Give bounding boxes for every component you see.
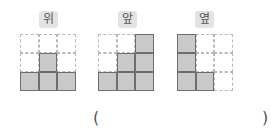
answer-close-paren: ) (262, 108, 268, 127)
empty-cell (117, 34, 136, 53)
empty-cell (39, 34, 58, 53)
filled-cell (177, 72, 196, 91)
answer-blank[interactable] (105, 108, 260, 128)
filled-cell (135, 53, 154, 72)
grid-front (98, 34, 154, 91)
filled-cell (98, 72, 117, 91)
filled-cell (117, 72, 136, 91)
filled-cell (20, 72, 39, 91)
empty-cell (196, 53, 215, 72)
filled-cell (196, 72, 215, 91)
empty-cell (214, 34, 233, 53)
empty-cell (214, 72, 233, 91)
filled-cell (57, 72, 76, 91)
filled-cell (39, 53, 58, 72)
empty-cell (20, 53, 39, 72)
filled-cell (39, 72, 58, 91)
grid-side (177, 34, 233, 91)
empty-cell (214, 53, 233, 72)
empty-cell (20, 34, 39, 53)
filled-cell (135, 72, 154, 91)
view-label-side: 옆 (195, 11, 214, 28)
empty-cell (196, 34, 215, 53)
answer-open-paren: ( (93, 108, 99, 127)
filled-cell (177, 34, 196, 53)
empty-cell (57, 53, 76, 72)
empty-cell (98, 53, 117, 72)
filled-cell (177, 53, 196, 72)
grid-top (20, 34, 76, 91)
view-label-top: 위 (39, 11, 58, 28)
empty-cell (98, 34, 117, 53)
view-label-front: 앞 (118, 11, 137, 28)
filled-cell (117, 53, 136, 72)
empty-cell (57, 34, 76, 53)
filled-cell (135, 34, 154, 53)
